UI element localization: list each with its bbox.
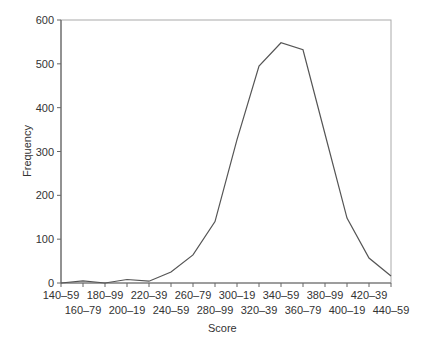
y-axis-title: Frequency	[21, 121, 33, 181]
x-tick-label: 220–39	[131, 289, 168, 301]
x-tick-label: 320–39	[241, 304, 278, 316]
x-tick-label: 180–99	[87, 289, 124, 301]
x-tick-label: 400–19	[329, 304, 366, 316]
frequency-line	[61, 43, 391, 283]
y-tick-label: 300	[36, 146, 54, 158]
y-tick-label: 600	[36, 14, 54, 26]
x-tick-label: 280–99	[197, 304, 234, 316]
x-tick-label: 240–59	[153, 304, 190, 316]
x-tick-label: 340–59	[263, 289, 300, 301]
y-tick-label: 200	[36, 189, 54, 201]
x-tick-label: 140–59	[43, 289, 80, 301]
plot-frame	[61, 20, 391, 283]
y-tick-label: 500	[36, 58, 54, 70]
y-tick-label: 0	[48, 277, 54, 289]
x-tick-label: 260–79	[175, 289, 212, 301]
x-axis-title: Score	[208, 322, 237, 334]
x-tick-label: 160–79	[65, 304, 102, 316]
x-tick-label: 420–39	[351, 289, 388, 301]
y-tick-label: 400	[36, 102, 54, 114]
x-tick-label: 300–19	[219, 289, 256, 301]
x-tick-label: 380–99	[307, 289, 344, 301]
x-tick-label: 360–79	[285, 304, 322, 316]
x-tick-label: 440–59	[373, 304, 410, 316]
y-tick-label: 100	[36, 233, 54, 245]
line-chart: 0100200300400500600140–59160–79180–99200…	[0, 0, 426, 352]
x-tick-label: 200–19	[109, 304, 146, 316]
